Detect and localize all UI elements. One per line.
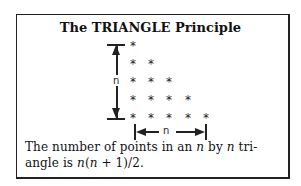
formula-var: n (90, 156, 98, 170)
arrow-right-icon (195, 128, 205, 136)
caption: The number of points in an n by n tri- a… (25, 139, 287, 171)
arrow-left-icon (136, 128, 146, 136)
point-asterisk: * (128, 59, 138, 69)
arrow-up-icon (112, 45, 120, 55)
caption-text: angle is (25, 156, 77, 170)
point-asterisk: * (164, 113, 174, 123)
point-asterisk: * (146, 113, 156, 123)
point-asterisk: * (128, 95, 138, 105)
point-asterisk: * (183, 113, 193, 123)
point-asterisk: * (164, 95, 174, 105)
formula-var: n (77, 156, 85, 170)
vertical-bottom-tick (107, 118, 125, 120)
point-asterisk: * (201, 113, 211, 123)
point-asterisk: * (146, 59, 156, 69)
caption-text: by (204, 140, 227, 154)
point-asterisk: * (128, 77, 138, 87)
point-asterisk: * (128, 113, 138, 123)
arrow-down-icon (112, 108, 120, 118)
caption-text: tri- (235, 140, 258, 154)
formula-text: + 1)/2. (98, 156, 144, 170)
point-asterisk: * (146, 77, 156, 87)
diagram-title: The TRIANGLE Principle (0, 20, 301, 35)
caption-var: n (227, 140, 235, 154)
point-asterisk: * (183, 95, 193, 105)
point-asterisk: * (128, 41, 138, 51)
point-asterisk: * (146, 95, 156, 105)
vertical-n-label: n (113, 75, 119, 86)
horizontal-n-label: n (163, 125, 169, 136)
horizontal-right-tick (205, 124, 207, 140)
caption-text: The number of points in an (25, 140, 196, 154)
point-asterisk: * (164, 77, 174, 87)
